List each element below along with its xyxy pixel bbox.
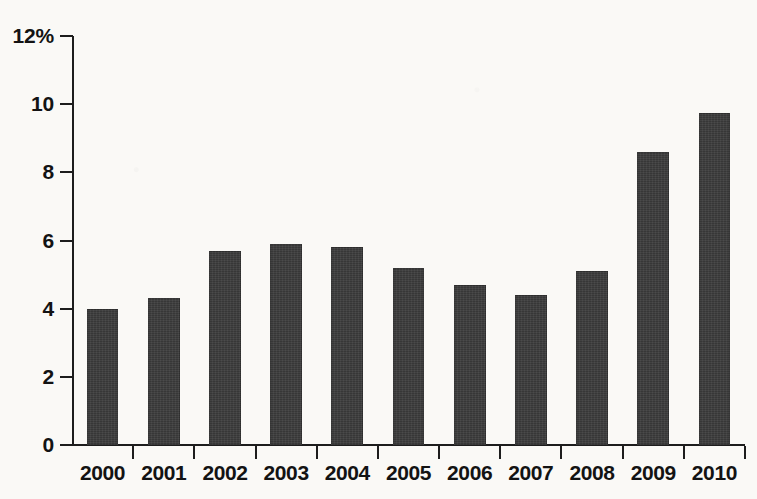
- x-axis-tick: [499, 446, 501, 459]
- x-axis-tick-label: 2003: [256, 462, 317, 483]
- x-axis-tick-label: 2004: [317, 462, 378, 483]
- x-axis-tick: [622, 446, 624, 459]
- y-axis-tick-label: 8: [43, 161, 54, 182]
- bar-2004: [331, 247, 363, 445]
- bar-2009: [637, 152, 669, 445]
- x-axis-tick: [377, 446, 379, 459]
- bar-2000: [87, 309, 119, 445]
- x-axis-tick-label: 2001: [133, 462, 194, 483]
- x-axis-tick: [255, 446, 257, 459]
- x-axis-tick: [683, 446, 685, 459]
- x-axis-tick: [193, 446, 195, 459]
- x-axis-tick: [316, 446, 318, 459]
- y-axis-tick-label: 6: [43, 230, 54, 251]
- y-axis-labels: 024681012%: [0, 0, 54, 499]
- bar-2006: [454, 285, 486, 445]
- x-axis-tick-label: 2005: [378, 462, 439, 483]
- y-axis-tick-label: 4: [43, 298, 54, 319]
- x-axis-tick: [560, 446, 562, 459]
- plot-area: [72, 36, 744, 445]
- bar-2001: [148, 298, 180, 445]
- bar-2008: [576, 271, 608, 445]
- x-axis-tick-label: 2000: [72, 462, 133, 483]
- bar-2003: [270, 244, 302, 445]
- x-axis-tick-label: 2007: [500, 462, 561, 483]
- x-axis-tick-label: 2006: [439, 462, 500, 483]
- y-axis-tick-label: 2: [43, 366, 54, 387]
- x-axis-tick: [438, 446, 440, 459]
- bar-2005: [393, 268, 425, 445]
- y-axis-tick-label: 12%: [13, 25, 54, 46]
- bar-2007: [515, 295, 547, 445]
- x-axis-tick-label: 2009: [623, 462, 684, 483]
- y-axis-tick-label: 10: [31, 93, 54, 114]
- x-axis-tick: [132, 446, 134, 459]
- x-axis-tick: [744, 446, 746, 459]
- y-axis-tick-label: 0: [43, 434, 54, 455]
- x-axis-tick-label: 2008: [561, 462, 622, 483]
- bar-chart: 024681012% 20002001200220032004200520062…: [0, 0, 757, 499]
- bar-2002: [209, 251, 241, 445]
- x-axis-tick-label: 2002: [194, 462, 255, 483]
- bar-2010: [699, 113, 731, 445]
- x-axis-tick-label: 2010: [684, 462, 745, 483]
